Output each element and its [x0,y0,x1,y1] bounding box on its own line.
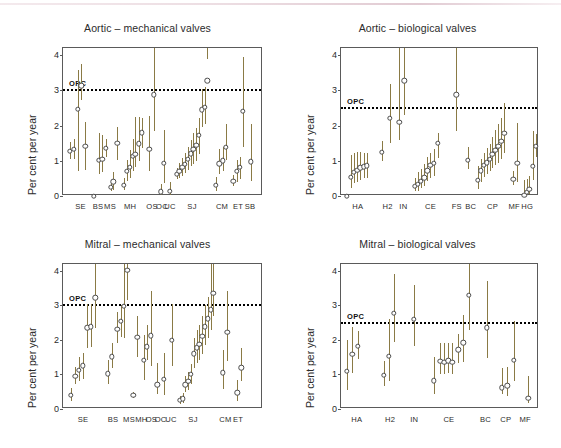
data-point-marker [533,143,538,148]
x-group-label-se: SE [75,202,86,211]
error-bar [139,117,140,161]
data-point-marker [530,163,535,168]
data-point-marker [466,292,471,297]
error-bar [172,304,173,366]
data-point-marker [131,392,136,397]
data-point-marker [525,395,530,400]
y-tick-label: 2 [332,335,337,345]
data-point-marker [125,268,130,273]
data-point-marker [133,152,138,157]
data-point-marker [167,189,172,194]
x-group-label-h2: H2 [385,415,395,424]
error-bar [207,48,208,59]
y-tick-mark [338,305,341,306]
error-bar [81,64,82,100]
error-bar [514,321,515,381]
error-bar [164,130,165,183]
error-bar [487,281,488,358]
data-point-marker [188,372,193,377]
data-point-marker [91,193,96,198]
data-point-marker [148,333,153,338]
y-tick-label: 1 [54,369,59,379]
y-tick-label: 3 [332,300,337,310]
data-point-marker [220,370,225,375]
data-point-marker [240,109,245,114]
data-point-marker [431,161,436,166]
x-group-label-bs: BS [93,202,104,211]
x-group-label-ms: MS [123,415,135,424]
y-tick-mark [60,271,63,272]
y-tick-mark [338,340,341,341]
data-point-marker [456,347,461,352]
data-point-marker [402,78,407,83]
x-group-label-fs: FS [452,202,462,211]
data-point-marker [478,168,483,173]
y-tick-mark [338,126,341,127]
data-point-marker [239,365,244,370]
x-group-label-in: IN [399,202,407,211]
data-point-marker [391,310,396,315]
opc-reference-line [63,89,261,91]
plot-area: 01234HAH2INCEBCCPMFOPC [340,263,538,408]
x-group-label-et: ET [233,415,243,424]
data-point-marker [155,382,160,387]
data-point-marker [499,139,504,144]
data-point-marker [111,179,116,184]
data-point-marker [80,363,85,368]
data-point-marker [83,143,88,148]
data-point-marker [196,133,201,138]
x-group-label-sb: SB [245,202,256,211]
data-point-marker [496,143,501,148]
data-point-marker [121,183,126,188]
data-point-marker [76,368,81,373]
data-point-marker [71,146,76,151]
data-point-marker [169,337,174,342]
data-point-marker [364,163,369,168]
data-point-marker [161,161,166,166]
error-bar [149,116,150,172]
data-point-marker [237,164,242,169]
error-bar [164,353,165,395]
y-tick-mark [60,374,63,375]
x-group-label-uc: UC [165,415,176,424]
data-point-marker [511,176,516,181]
x-group-label-sj: SJ [188,415,197,424]
data-point-marker [180,396,185,401]
y-tick-label: 2 [54,121,59,131]
data-point-marker [161,376,166,381]
x-group-label-bc: BC [480,415,491,424]
data-point-marker [350,352,355,357]
y-tick-label: 3 [54,300,59,310]
x-group-label-uc: UC [164,202,175,211]
error-bar [251,124,252,181]
data-point-marker [103,146,108,151]
error-bar [434,357,435,395]
y-tick-mark [60,126,63,127]
figure-four-panel-forest-plots: Aortic – mechanical valvesPer cent per y… [0,0,561,448]
data-point-marker [141,357,146,362]
data-point-marker [100,156,105,161]
data-point-marker [487,156,492,161]
data-point-marker [115,141,120,146]
data-point-marker [461,340,466,345]
data-point-marker [139,130,144,135]
plot-area: 01234SEBSMSMHOSOCUCSJCMETSBOPC [62,47,262,195]
error-bar [227,291,228,361]
error-bar [124,264,125,338]
error-bar [147,325,148,360]
y-tick-label: 0 [332,191,337,201]
data-point-marker [348,175,353,180]
data-point-marker [118,318,123,323]
data-point-marker [109,354,114,359]
data-point-marker [344,193,349,198]
error-bar [507,367,508,396]
error-bar [399,48,400,140]
error-bar [352,327,353,373]
data-point-marker [151,92,156,97]
opc-label: OPC [347,97,364,106]
x-group-label-h2: H2 [382,202,392,211]
x-group-label-in: IN [410,415,418,424]
data-point-marker [490,152,495,157]
data-point-marker [158,189,163,194]
y-tick-label: 4 [54,50,59,60]
